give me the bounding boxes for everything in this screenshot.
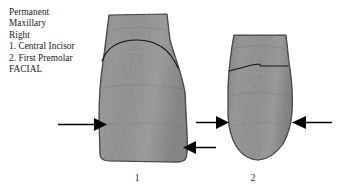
figure-number-2: 2 xyxy=(246,173,260,183)
tooth-central-incisor xyxy=(99,14,187,162)
tooth-anatomy-figure: Permanent Maxillary Right 1. Central Inc… xyxy=(0,0,338,191)
tooth-first-premolar xyxy=(228,35,292,160)
premolar-body xyxy=(228,35,292,160)
figure-number-1: 1 xyxy=(130,173,144,183)
arrow-left-premolar xyxy=(196,116,229,129)
teeth-illustration xyxy=(0,0,338,191)
arrow-right-premolar xyxy=(292,116,332,129)
